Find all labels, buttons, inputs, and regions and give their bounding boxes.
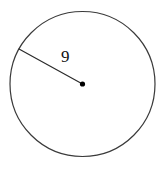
radius-line — [19, 49, 83, 84]
radius-length-label: 9 — [61, 48, 70, 65]
center-point-dot — [80, 81, 85, 86]
geometry-figure: 9 — [0, 0, 165, 169]
circle-diagram-svg — [0, 0, 165, 169]
